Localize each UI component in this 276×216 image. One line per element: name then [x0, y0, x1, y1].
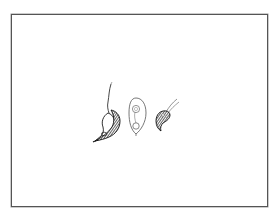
organism-1 — [93, 82, 120, 142]
organism-2 — [129, 98, 146, 136]
image-canvas — [0, 0, 276, 216]
organism-illustration — [0, 0, 276, 216]
organism-3 — [156, 99, 179, 131]
